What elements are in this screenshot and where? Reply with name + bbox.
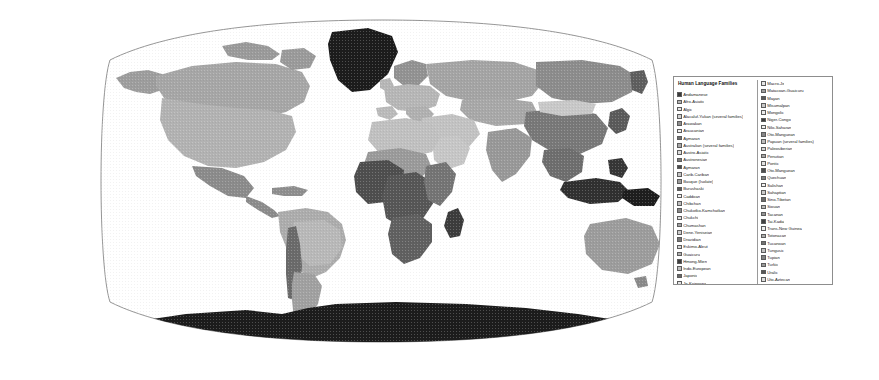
legend-swatch-icon — [677, 194, 682, 198]
legend-item[interactable]: Uralic — [761, 269, 833, 276]
legend-swatch-icon — [761, 205, 766, 209]
legend-item[interactable]: Hmong-Mien — [677, 258, 756, 265]
legend-item-label: Aymaran — [683, 165, 700, 170]
legend-item[interactable]: Pontic — [761, 160, 833, 167]
legend-item[interactable]: Salishan — [761, 182, 833, 189]
legend-item[interactable]: Tucanoan — [761, 240, 833, 247]
legend-swatch-icon — [677, 187, 682, 191]
legend-swatch-icon — [677, 266, 682, 270]
legend-swatch-icon — [761, 103, 766, 107]
legend-item-label: Algic — [683, 107, 692, 112]
legend-item-label: Alacaluf-Yukan (several families) — [683, 114, 743, 119]
legend-item[interactable]: Carib-Cariban — [677, 171, 756, 178]
legend-item[interactable]: Matacoan-Guaicuru — [761, 87, 833, 94]
legend-item[interactable]: Paleosiberian — [761, 145, 833, 152]
legend-item[interactable]: Tai-Kadai — [761, 218, 833, 225]
legend-swatch-icon — [677, 143, 682, 147]
legend-swatch-icon — [761, 89, 766, 93]
legend-item[interactable]: Sino-Tibetan — [761, 196, 833, 203]
legend-swatch-icon — [761, 212, 766, 216]
legend-item[interactable]: Eskimo-Aleut — [677, 243, 756, 250]
legend-item-label: Tupian — [767, 255, 780, 260]
legend-item[interactable]: Araucanian — [677, 127, 756, 134]
legend-item[interactable]: Burushaski — [677, 185, 756, 192]
legend-item-label: Uto-Aztecan — [767, 277, 790, 282]
legend-swatch-icon — [677, 92, 682, 96]
legend-item[interactable]: Misumalpan — [761, 102, 833, 109]
legend-item[interactable]: Trans-New Guinea — [761, 225, 833, 232]
legend-item[interactable]: Guaicuru — [677, 251, 756, 258]
legend-item[interactable]: Quechuan — [761, 174, 833, 181]
legend-item[interactable]: Chukotko-Kamchatkan — [677, 207, 756, 214]
legend-item-label: Carib-Cariban — [683, 172, 709, 177]
legend-item[interactable]: Papuan (several families) — [761, 138, 833, 145]
raster-grain-overlay — [96, 16, 666, 346]
legend-item-label: Niger-Congo — [767, 117, 791, 122]
legend-item[interactable]: Mongolic — [761, 109, 833, 116]
legend-item[interactable]: Austro-Asiatic — [677, 149, 756, 156]
legend-item[interactable]: Indo-European — [677, 265, 756, 272]
legend-item[interactable]: Dene-Yeniseian — [677, 229, 756, 236]
legend-item-label: Chibchan — [683, 201, 701, 206]
legend-item-label: Trans-New Guinea — [767, 226, 802, 231]
legend-item[interactable]: Oto-Manguean — [761, 131, 833, 138]
legend-item-label: Mayan — [767, 96, 779, 101]
legend-item-label: Paleosiberian — [767, 146, 792, 151]
legend-item[interactable]: Tupian — [761, 254, 833, 261]
legend-swatch-icon — [677, 216, 682, 220]
legend-item-label: Salishan — [767, 183, 783, 188]
legend-item[interactable]: Arawakan — [677, 120, 756, 127]
legend-item[interactable]: Witotoan — [761, 283, 833, 285]
legend-swatch-icon — [677, 100, 682, 104]
legend-list-left: AndamaneseAfro-AsiaticAlgicAlacaluf-Yuka… — [677, 91, 756, 285]
legend-item-label: Sino-Tibetan — [767, 197, 790, 202]
legend-swatch-icon — [761, 125, 766, 129]
legend-item[interactable]: Chibchan — [677, 200, 756, 207]
legend-swatch-icon — [761, 154, 766, 158]
legend-item[interactable]: Sahaptian — [761, 189, 833, 196]
legend-item[interactable]: Afro-Asiatic — [677, 98, 756, 105]
legend-item[interactable]: Penutian — [761, 153, 833, 160]
legend-item[interactable]: Alacaluf-Yukan (several families) — [677, 113, 756, 120]
legend-item[interactable]: Caddoan — [677, 193, 756, 200]
legend-item[interactable]: Totonacan — [761, 232, 833, 239]
legend-item[interactable]: Dravidian — [677, 236, 756, 243]
legend-item[interactable]: Turkic — [761, 261, 833, 268]
legend-item[interactable]: Australian (several families) — [677, 142, 756, 149]
legend-column-left: Human Language Families AndamaneseAfro-A… — [677, 80, 756, 285]
legend-item-label: Japonic — [683, 273, 697, 278]
legend-swatch-icon — [761, 118, 766, 122]
legend-item[interactable]: Basque (Isolate) — [677, 178, 756, 185]
legend-item-label: Misumalpan — [767, 103, 789, 108]
legend-swatch-icon — [761, 139, 766, 143]
legend-item[interactable]: Aymaran — [677, 135, 756, 142]
legend-item-label: Austronesian — [683, 157, 707, 162]
legend-item[interactable]: Niger-Congo — [761, 116, 833, 123]
legend-item[interactable]: Je-Kaingang — [677, 280, 756, 286]
legend-swatch-icon — [677, 237, 682, 241]
legend-item[interactable]: Chukchi — [677, 214, 756, 221]
legend-item[interactable]: Aymaran — [677, 164, 756, 171]
legend-item[interactable]: Oto-Manguean — [761, 167, 833, 174]
legend-item[interactable]: Uto-Aztecan — [761, 276, 833, 283]
legend-item[interactable]: Mayan — [761, 95, 833, 102]
legend-item[interactable]: Tungusic — [761, 247, 833, 254]
legend-item[interactable]: Algic — [677, 106, 756, 113]
legend-item-label: Burushaski — [683, 186, 704, 191]
legend-column-right: Macro-JeMatacoan-GuaicuruMayanMisumalpan… — [757, 80, 833, 285]
legend-item[interactable]: Macro-Je — [761, 80, 833, 87]
legend-item-label: Tacanan — [767, 212, 783, 217]
legend-item[interactable]: Chumashan — [677, 222, 756, 229]
legend-swatch-icon — [677, 252, 682, 256]
legend-item-label: Nilo-Saharan — [767, 125, 791, 130]
legend-swatch-icon — [677, 129, 682, 133]
legend-item[interactable]: Siouan — [761, 203, 833, 210]
legend-swatch-icon — [761, 168, 766, 172]
legend-item-label: Quechuan — [767, 175, 786, 180]
legend-item[interactable]: Nilo-Saharan — [761, 124, 833, 131]
legend-panel: Human Language Families AndamaneseAfro-A… — [673, 76, 833, 285]
legend-item[interactable]: Andamanese — [677, 91, 756, 98]
legend-item[interactable]: Austronesian — [677, 156, 756, 163]
legend-item[interactable]: Japonic — [677, 272, 756, 279]
legend-item[interactable]: Tacanan — [761, 211, 833, 218]
